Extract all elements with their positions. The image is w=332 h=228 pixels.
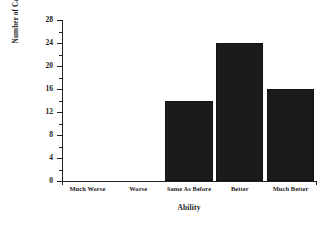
x-axis-tick-label: Worse: [113, 184, 164, 194]
y-axis-tick-label-slot: 8: [34, 131, 53, 139]
y-axis-tick-label: 8: [34, 131, 53, 139]
bar-chart: Number of Cases 0481216202428 Much Worse…: [0, 0, 332, 228]
y-axis-tick-label: 16: [34, 85, 53, 93]
x-axis-tick-label: Same As Before: [164, 184, 215, 194]
y-axis-minor-tick: [59, 101, 63, 102]
y-axis-tick-label-slot: 20: [34, 62, 53, 70]
y-axis-title: Number of Cases: [10, 0, 22, 70]
y-axis-tick-label-slot: 0: [34, 177, 53, 185]
x-axis-tick-label: Much Better: [265, 184, 316, 194]
y-axis-tick-label: 0: [34, 177, 53, 185]
y-axis-minor-tick: [59, 32, 63, 33]
x-axis-line: [62, 181, 316, 182]
y-axis-major-tick: [57, 43, 63, 44]
y-axis-tick-label-slot: 28: [34, 16, 53, 24]
bar: [165, 101, 212, 182]
y-axis-tick-label-slot: 24: [34, 39, 53, 47]
y-axis-minor-tick: [59, 147, 63, 148]
x-axis-title: Ability: [62, 203, 316, 213]
y-axis-minor-tick: [59, 78, 63, 79]
y-axis-tick-label: 4: [34, 154, 53, 162]
y-axis-minor-tick: [59, 124, 63, 125]
y-axis-tick-label: 28: [34, 16, 53, 24]
y-axis-tick-label-slot: 4: [34, 154, 53, 162]
y-axis-major-tick: [57, 20, 63, 21]
y-axis-major-tick: [57, 112, 63, 113]
bar: [216, 43, 263, 181]
y-axis-major-tick: [57, 158, 63, 159]
y-axis-minor-tick: [59, 55, 63, 56]
x-axis-tick-label: Better: [214, 184, 265, 194]
y-axis-major-tick: [57, 66, 63, 67]
y-axis-tick-label-slot: 16: [34, 85, 53, 93]
y-axis-minor-tick: [59, 170, 63, 171]
y-axis-tick-label: 24: [34, 39, 53, 47]
y-axis-major-tick: [57, 89, 63, 90]
y-axis-tick-label: 12: [34, 108, 53, 116]
x-axis-tick-label: Much Worse: [62, 184, 113, 194]
y-axis-tick-label-slot: 12: [34, 108, 53, 116]
bar: [267, 89, 314, 181]
y-axis-tick-label: 20: [34, 62, 53, 70]
y-axis-major-tick: [57, 135, 63, 136]
x-axis-end-tick: [316, 181, 317, 185]
